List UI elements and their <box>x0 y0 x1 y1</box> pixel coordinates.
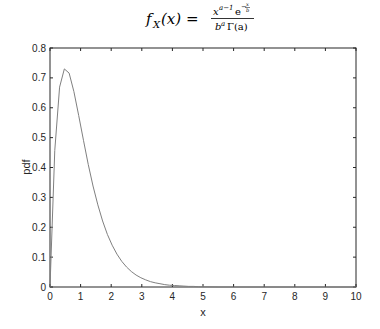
x-tick-label: 7 <box>261 291 267 302</box>
y-tick-label: 0.4 <box>32 162 46 173</box>
x-tick-label: 8 <box>292 291 298 302</box>
title-lhs-subscript: X <box>152 19 161 30</box>
y-tick-label: 0 <box>40 282 46 293</box>
title-denominator-gamma: Γ(a) <box>227 21 248 32</box>
x-axis-label: x <box>200 306 206 318</box>
y-tick-label: 0.1 <box>32 252 46 263</box>
x-tick-label: 5 <box>200 291 206 302</box>
y-tick-label: 0.8 <box>32 43 46 54</box>
y-tick-label: 0.6 <box>32 102 46 113</box>
y-tick-label: 0.7 <box>32 72 46 83</box>
y-tick-label: 0.2 <box>32 222 46 233</box>
plot-area <box>50 48 356 287</box>
title-denominator-exp: a <box>221 20 225 28</box>
x-tick-label: 9 <box>323 291 329 302</box>
gamma-pdf-chart: f X (x) = x a−1 e − x b b a Γ(a) 0123456… <box>0 0 380 329</box>
x-tick-label: 10 <box>350 291 362 302</box>
title-lhs-arg: (x) = <box>161 10 199 28</box>
chart-title: f X (x) = x a−1 e − x b b a Γ(a) <box>145 1 254 32</box>
x-tick-label: 1 <box>78 291 84 302</box>
y-tick-label: 0.5 <box>32 132 46 143</box>
title-inner-frac-den: b <box>246 7 249 13</box>
x-tick-label: 4 <box>170 291 176 302</box>
y-axis-label: pdf <box>20 158 32 174</box>
y-tick-label: 0.3 <box>32 192 46 203</box>
x-tick-label: 6 <box>231 291 237 302</box>
x-tick-label: 0 <box>47 291 53 302</box>
x-tick-label: 3 <box>139 291 145 302</box>
x-tick-label: 2 <box>108 291 114 302</box>
title-numerator-exp: a−1 <box>219 4 234 12</box>
